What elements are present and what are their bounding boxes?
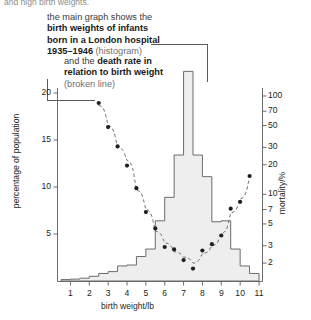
mortality-point bbox=[229, 207, 233, 211]
x-tick-label: 1 bbox=[63, 288, 77, 298]
x-tick-label: 5 bbox=[139, 288, 153, 298]
mortality-point bbox=[210, 242, 214, 246]
y-tick-label-right: 50 bbox=[268, 120, 290, 130]
y-tick-label-right: 30 bbox=[268, 141, 290, 151]
y-tick-label-left: 5 bbox=[33, 228, 51, 238]
y-tick-label-right: 2 bbox=[268, 257, 290, 267]
y-axis-label-left: percentage of population bbox=[11, 101, 21, 221]
x-tick-label: 11 bbox=[252, 288, 266, 298]
mortality-point bbox=[248, 174, 252, 178]
mortality-point bbox=[191, 267, 195, 271]
y-tick-label-right: 10 bbox=[268, 188, 290, 198]
mortality-point bbox=[238, 200, 242, 204]
x-tick-label: 4 bbox=[120, 288, 134, 298]
mortality-point bbox=[219, 233, 223, 237]
y-tick-label-right: 100 bbox=[268, 90, 290, 100]
x-tick-label: 10 bbox=[233, 288, 247, 298]
x-tick-label: 9 bbox=[214, 288, 228, 298]
mortality-point bbox=[163, 245, 167, 249]
y-tick-label-left: 15 bbox=[33, 134, 51, 144]
histogram-bars bbox=[61, 71, 259, 281]
x-axis-label: birth weight/lb bbox=[101, 301, 154, 311]
mortality-point bbox=[134, 186, 138, 190]
mortality-point bbox=[116, 144, 120, 148]
x-tick-label: 7 bbox=[177, 288, 191, 298]
mortality-point bbox=[144, 210, 148, 214]
y-tick-label-right: 3 bbox=[268, 240, 290, 250]
figure-root: and high birth weights. the main graph s… bbox=[0, 0, 311, 320]
y-tick-label-left: 20 bbox=[33, 87, 51, 97]
plot-canvas bbox=[0, 0, 311, 320]
mortality-point bbox=[153, 226, 157, 230]
y-tick-label-right: 20 bbox=[268, 159, 290, 169]
y-tick-label-right: 70 bbox=[268, 105, 290, 115]
y-tick-label-left: 10 bbox=[33, 181, 51, 191]
mortality-point bbox=[106, 125, 110, 129]
mortality-point bbox=[182, 258, 186, 262]
mortality-point bbox=[97, 101, 101, 105]
x-tick-label: 8 bbox=[195, 288, 209, 298]
mortality-point bbox=[172, 247, 176, 251]
mortality-point bbox=[125, 164, 129, 168]
y-tick-label-right: 5 bbox=[268, 218, 290, 228]
x-tick-label: 2 bbox=[82, 288, 96, 298]
y-tick-label-right: 7 bbox=[268, 204, 290, 214]
x-tick-label: 3 bbox=[101, 288, 115, 298]
histogram-outline bbox=[61, 71, 259, 281]
mortality-point bbox=[200, 248, 204, 252]
x-tick-label: 6 bbox=[158, 288, 172, 298]
